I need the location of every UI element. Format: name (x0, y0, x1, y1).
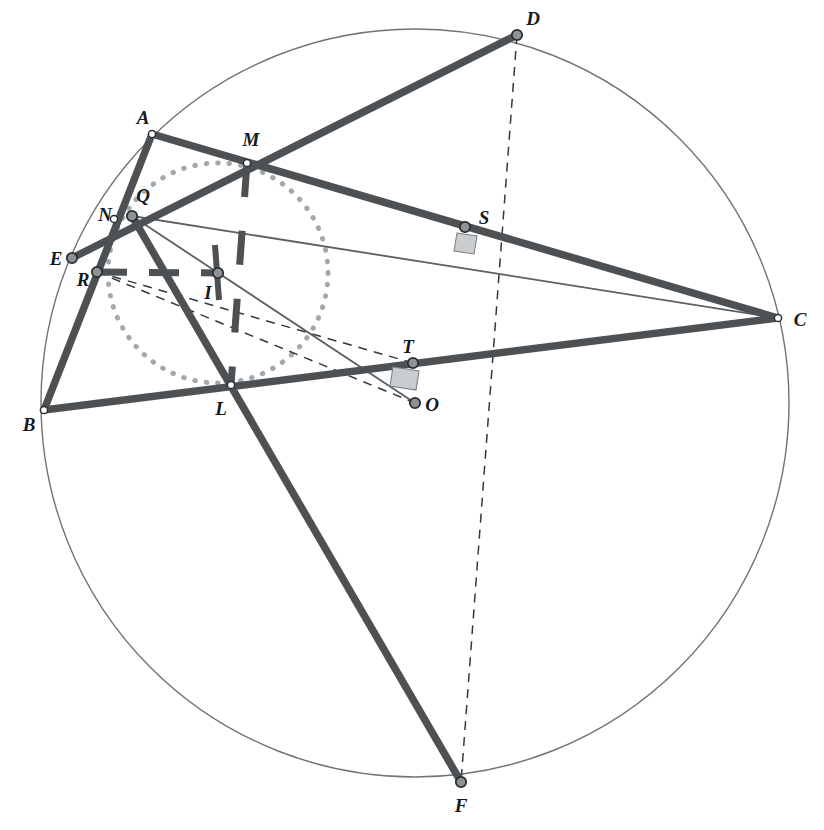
thick-solid-lines (44, 35, 778, 782)
point-label-T: T (402, 337, 414, 356)
point-label-A: A (137, 108, 150, 127)
segment-Q-C (132, 216, 778, 318)
point-label-E: E (50, 249, 63, 268)
point-label-C: C (794, 310, 807, 329)
segment-R-I (97, 272, 218, 273)
dashed-thin-lines (97, 35, 517, 782)
point-marker-S (460, 222, 470, 232)
point-label-R: R (77, 270, 90, 289)
point-label-D: D (526, 9, 540, 28)
point-marker-O (410, 398, 420, 408)
point-marker-M (243, 159, 250, 166)
point-marker-B (40, 406, 47, 413)
point-label-O: O (425, 395, 439, 414)
segment-D-F (461, 35, 517, 782)
dashed-thick-lines (97, 163, 247, 385)
point-marker-D (512, 30, 522, 40)
point-marker-F (456, 777, 466, 787)
segment-M-I-L (231, 163, 247, 385)
right-angle-at-T (390, 367, 419, 390)
right-angle-at-S (454, 233, 477, 254)
point-label-N: N (98, 205, 112, 224)
point-label-I: I (204, 283, 211, 302)
segment-R-T (97, 272, 413, 363)
point-marker-R (92, 267, 102, 277)
point-marker-L (227, 381, 234, 388)
point-marker-E (67, 253, 77, 263)
point-label-Q: Q (136, 186, 150, 205)
point-marker-C (774, 314, 781, 321)
geometry-canvas (0, 0, 824, 830)
point-marker-A (148, 130, 155, 137)
segment-Q-F (132, 216, 461, 782)
point-label-B: B (23, 415, 36, 434)
point-label-S: S (479, 208, 490, 227)
point-marker-I (213, 268, 223, 278)
point-label-M: M (243, 130, 260, 149)
geometry-figure: ABCDEFILMNOQRST (0, 0, 824, 830)
point-marker-Q (127, 211, 137, 221)
point-label-L: L (215, 399, 227, 418)
point-marker-T (408, 358, 418, 368)
point-label-F: F (455, 796, 468, 815)
